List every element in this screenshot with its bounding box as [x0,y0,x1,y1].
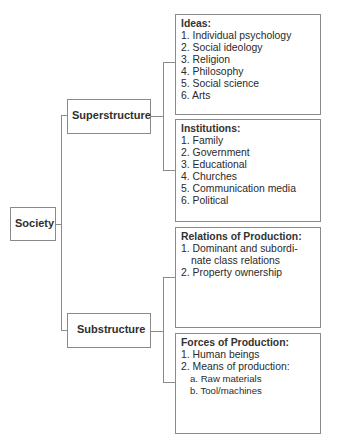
superstructure-node: Superstructure [67,99,151,134]
institutions-list: 1. Family 2. Government 3. Educational 4… [181,135,314,207]
connector-substructure-out [150,331,164,332]
list-subitem: a. Raw materials [181,373,314,385]
list-item: 5. Social science [181,78,314,90]
forces-list: 1. Human beings 2. Means of production: … [181,349,314,397]
list-item: 3. Religion [181,54,314,66]
forces-title: Forces of Production: [181,337,314,349]
connector-substructure-spine [163,277,164,383]
substructure-label: Substructure [77,323,145,335]
connector-superstructure-spine [163,62,164,171]
list-item: 1. Dominant and subordi-nate class relat… [181,243,299,267]
list-item: 4. Churches [181,171,314,183]
forces-of-production-panel: Forces of Production: 1. Human beings 2.… [175,333,321,434]
list-item: 3. Educational [181,159,314,171]
list-item: 4. Philosophy [181,66,314,78]
list-item: 5. Communication media [181,183,314,195]
list-item: 2. Social ideology [181,42,314,54]
ideas-list: 1. Individual psychology 2. Social ideol… [181,30,314,102]
list-subitem: b. Tool/machines [181,385,314,397]
list-item: 2. Government [181,147,314,159]
list-item: 2. Property ownership [181,267,299,279]
substructure-node: Substructure [67,313,151,348]
superstructure-label: Superstructure [72,109,151,121]
list-item: 6. Political [181,195,314,207]
connector-root-spine [61,115,62,331]
society-label: Society [15,217,54,229]
list-item: 1. Human beings [181,349,314,361]
connector-superstructure-out [150,116,164,117]
relations-of-production-panel: Relations of Production: 1. Dominant and… [175,227,321,328]
ideas-panel: Ideas: 1. Individual psychology 2. Socia… [175,14,321,115]
relations-title: Relations of Production: [181,231,314,243]
list-item: 1. Family [181,135,314,147]
institutions-title: Institutions: [181,123,314,135]
institutions-panel: Institutions: 1. Family 2. Government 3.… [175,119,321,222]
ideas-title: Ideas: [181,18,314,30]
list-item: 1. Individual psychology [181,30,314,42]
list-item: 2. Means of production: [181,361,314,373]
list-item: 6. Arts [181,90,314,102]
relations-list: 1. Dominant and subordi-nate class relat… [181,243,299,279]
society-node: Society [10,207,56,241]
